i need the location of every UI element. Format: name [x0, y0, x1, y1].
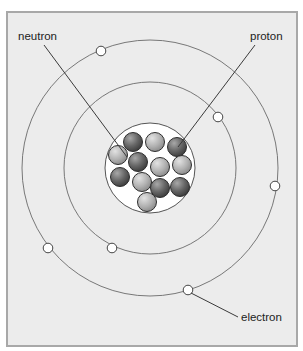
- proton-particle: [124, 133, 143, 152]
- electron-label: electron: [241, 311, 282, 323]
- neutron-particle: [138, 193, 157, 212]
- electron-outer: [270, 181, 280, 191]
- atom-diagram: neutron proton electron: [0, 0, 303, 351]
- nucleus: [105, 123, 195, 213]
- proton-particle: [111, 168, 130, 187]
- neutron-particle: [146, 133, 165, 152]
- neutron-particle: [133, 173, 152, 192]
- proton-particle: [129, 153, 148, 172]
- proton-particle: [171, 178, 190, 197]
- neutron-particle: [151, 158, 170, 177]
- neutron-particle: [109, 146, 128, 165]
- electron-outer: [43, 243, 53, 253]
- neutron-label: neutron: [18, 30, 57, 42]
- electron-outer: [96, 46, 106, 56]
- electron-inner: [107, 243, 117, 253]
- proton-label: proton: [250, 30, 283, 42]
- proton-particle: [168, 138, 187, 157]
- neutron-particle: [173, 156, 192, 175]
- electron-inner: [213, 112, 223, 122]
